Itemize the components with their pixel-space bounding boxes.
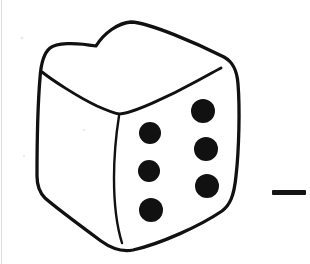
pip-left-3	[139, 198, 163, 222]
paper-speck	[23, 155, 25, 157]
pip-right-1	[191, 99, 215, 123]
pip-left-1	[139, 122, 161, 144]
drawing-canvas: Black ink line drawing of a cube-shaped …	[0, 0, 310, 264]
pip-right-3	[195, 174, 219, 198]
paper-speck	[83, 129, 86, 132]
pip-left-2	[138, 160, 160, 182]
die-illustration	[0, 0, 310, 264]
paper-speck	[20, 36, 23, 39]
pip-right-2	[194, 137, 218, 161]
right-edge-dash-mark	[272, 190, 306, 195]
